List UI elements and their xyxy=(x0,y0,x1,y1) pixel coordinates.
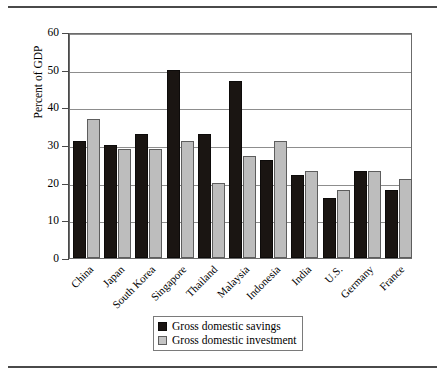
bar xyxy=(274,141,287,258)
y-axis-tick-label: 60 xyxy=(19,27,59,39)
bar-group xyxy=(198,34,225,258)
bar-group xyxy=(385,34,412,258)
bar xyxy=(323,198,336,258)
y-axis-tick-label: 40 xyxy=(19,102,59,114)
y-axis-tick xyxy=(62,108,69,109)
y-axis-tick-label: 30 xyxy=(19,140,59,152)
top-rule xyxy=(8,6,437,8)
bar-group xyxy=(135,34,162,258)
y-axis-tick xyxy=(62,146,69,147)
black-square-icon xyxy=(158,322,167,331)
bar-group xyxy=(104,34,131,258)
bar xyxy=(104,145,117,258)
bar xyxy=(149,149,162,258)
bar-group xyxy=(323,34,350,258)
bar xyxy=(337,190,350,258)
bar-group xyxy=(167,34,194,258)
figure: Percent of GDP 0102030405060 ChinaJapanS… xyxy=(0,0,445,381)
bar-group xyxy=(73,34,100,258)
bar xyxy=(385,190,398,258)
legend-item-label: Gross domestic investment xyxy=(172,334,297,346)
bar xyxy=(118,149,131,258)
bar-group xyxy=(291,34,318,258)
bar xyxy=(181,141,194,258)
gray-square-icon xyxy=(158,336,167,345)
bar xyxy=(135,134,148,258)
bar xyxy=(399,179,412,258)
bottom-rule xyxy=(8,366,437,368)
bar xyxy=(291,175,304,258)
y-axis-tick-label: 20 xyxy=(19,178,59,190)
bar xyxy=(229,81,242,258)
bar xyxy=(212,183,225,258)
bar-group xyxy=(354,34,381,258)
bar xyxy=(260,160,273,258)
y-axis-tick-label: 50 xyxy=(19,65,59,77)
bar xyxy=(354,171,367,258)
bar-group xyxy=(260,34,287,258)
bar xyxy=(305,171,318,258)
bar xyxy=(73,141,86,258)
legend-item: Gross domestic investment xyxy=(158,333,297,347)
plot-area xyxy=(69,33,412,259)
bar xyxy=(198,134,211,258)
y-axis-tick xyxy=(62,184,69,185)
bar xyxy=(167,70,180,258)
y-axis-tick xyxy=(62,221,69,222)
x-axis-tick-labels: ChinaJapanSouth KoreaSingaporeThailandMa… xyxy=(0,259,445,319)
y-axis-tick-label: 10 xyxy=(19,215,59,227)
bar xyxy=(87,119,100,258)
bar xyxy=(368,171,381,258)
legend-item: Gross domestic savings xyxy=(158,319,297,333)
y-axis-tick xyxy=(62,71,69,72)
bar-group xyxy=(229,34,256,258)
legend-item-label: Gross domestic savings xyxy=(172,320,281,332)
bar xyxy=(243,156,256,258)
y-axis-tick xyxy=(62,33,69,34)
legend: Gross domestic savings Gross domestic in… xyxy=(153,316,303,351)
